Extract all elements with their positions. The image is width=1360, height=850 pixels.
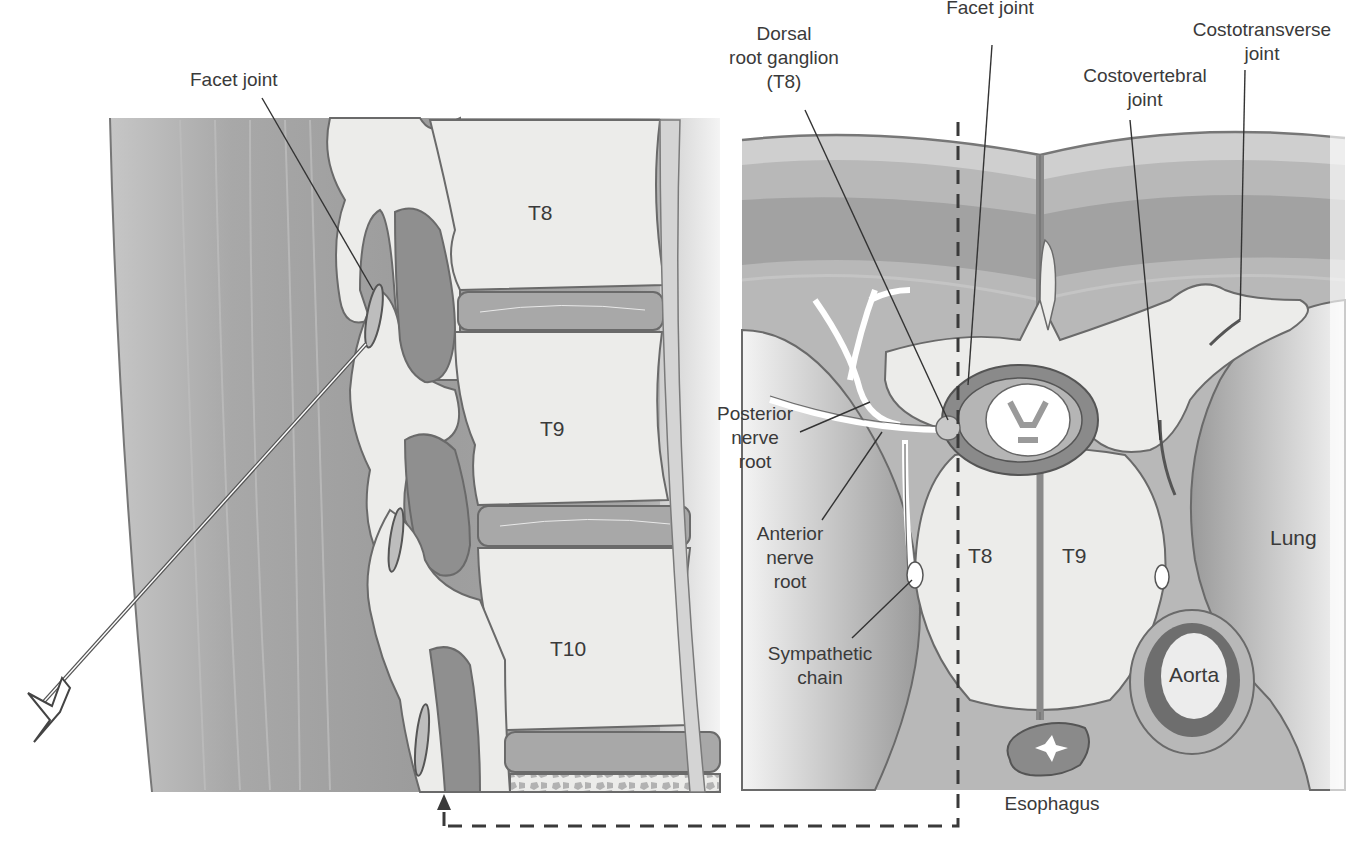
sympathetic-chain-right	[1155, 565, 1169, 589]
label-costotransverse-1: Costotransverse	[1193, 19, 1331, 40]
label-lung: Lung	[1270, 526, 1317, 549]
anatomy-figure: Facet joint T8 T9 T10	[0, 0, 1360, 850]
label-posterior-2: nerve	[731, 427, 779, 448]
label-facet-joint-axial: Facet joint	[946, 0, 1034, 18]
label-costovertebral-1: Costovertebral	[1083, 65, 1207, 86]
label-sympathetic-1: Sympathetic	[768, 643, 873, 664]
spinal-cord	[986, 384, 1070, 456]
arrowhead-icon	[437, 794, 451, 810]
label-posterior-1: Posterior	[717, 403, 794, 424]
sagittal-view: Facet joint T8 T9 T10	[28, 69, 720, 792]
label-t9-sagittal: T9	[540, 417, 565, 440]
axial-view: Dorsal root ganglion (T8) Facet joint Co…	[717, 0, 1360, 814]
sympathetic-chain-left	[907, 562, 923, 588]
label-facet-joint-sagittal: Facet joint	[190, 69, 278, 90]
label-aorta: Aorta	[1169, 663, 1220, 686]
label-sympathetic-2: chain	[797, 667, 842, 688]
label-drg-3: (T8)	[767, 71, 802, 92]
label-anterior-3: root	[774, 571, 807, 592]
label-drg-2: root ganglion	[729, 47, 839, 68]
label-anterior-2: nerve	[766, 547, 814, 568]
label-posterior-3: root	[739, 451, 772, 472]
label-t8-sagittal: T8	[528, 201, 553, 224]
label-t8-axial: T8	[968, 544, 993, 567]
label-costotransverse-2: joint	[1244, 43, 1281, 64]
label-anterior-1: Anterior	[757, 523, 824, 544]
label-t10-sagittal: T10	[550, 637, 586, 660]
disc-t9-t10	[478, 506, 690, 546]
label-t9-axial: T9	[1062, 544, 1087, 567]
label-drg-1: Dorsal	[757, 23, 812, 44]
label-costovertebral-2: joint	[1127, 89, 1164, 110]
label-esophagus: Esophagus	[1004, 793, 1099, 814]
